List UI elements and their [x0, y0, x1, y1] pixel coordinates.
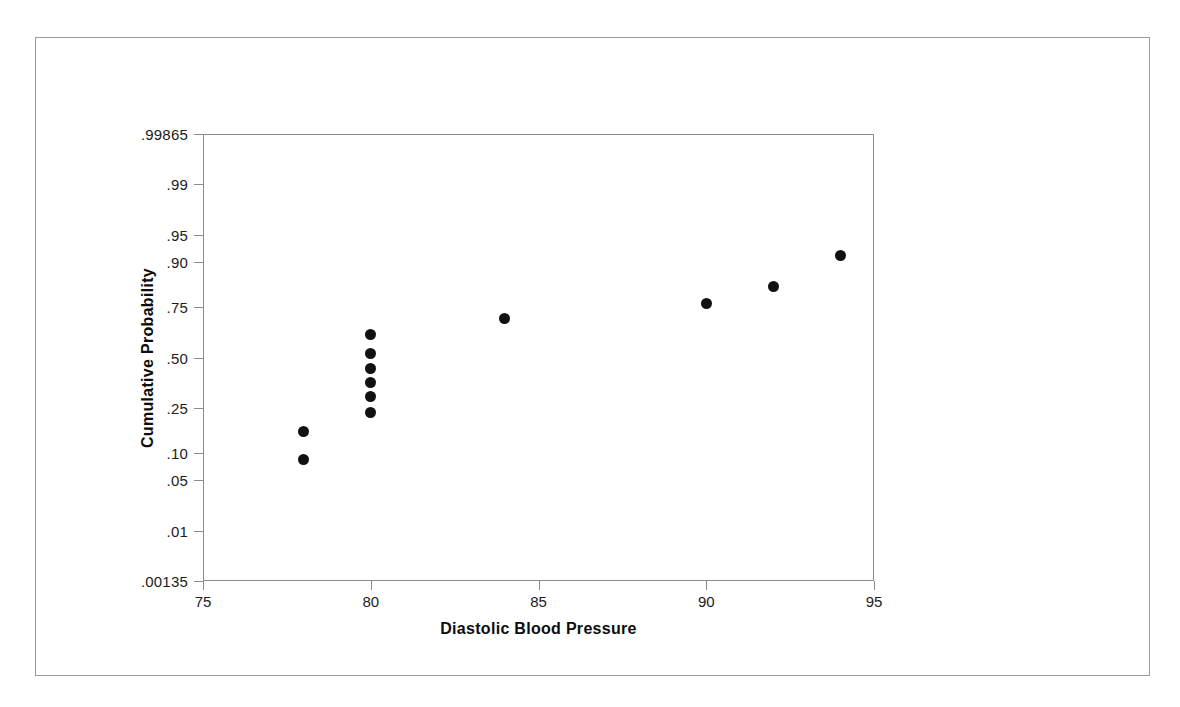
y-tick-label: .10	[78, 444, 188, 461]
y-tick-label: .99865	[78, 126, 188, 143]
y-tick-label: .00135	[78, 573, 188, 590]
y-tick-label: .05	[78, 472, 188, 489]
y-tick-mark	[194, 358, 203, 359]
x-tick-mark	[874, 581, 875, 590]
y-tick-label: .50	[78, 349, 188, 366]
y-tick-mark	[194, 453, 203, 454]
y-tick-label: .99	[78, 176, 188, 193]
y-tick-mark	[194, 531, 203, 532]
x-tick-label: 95	[866, 593, 883, 610]
y-tick-label: .01	[78, 522, 188, 539]
y-tick-mark	[194, 184, 203, 185]
x-tick-label: 80	[362, 593, 379, 610]
y-tick-mark	[194, 581, 203, 582]
y-tick-label: .75	[78, 299, 188, 316]
y-tick-mark	[194, 408, 203, 409]
normal-probability-plot: Cumulative Probability Diastolic Blood P…	[0, 0, 1180, 707]
y-tick-label: .90	[78, 254, 188, 271]
x-tick-mark	[706, 581, 707, 590]
data-point	[835, 250, 846, 261]
x-tick-mark	[203, 581, 204, 590]
plot-frame	[203, 134, 874, 581]
y-tick-mark	[194, 235, 203, 236]
x-tick-mark	[371, 581, 372, 590]
x-tick-label: 90	[698, 593, 715, 610]
data-point	[701, 298, 712, 309]
y-tick-label: .25	[78, 399, 188, 416]
y-tick-mark	[194, 134, 203, 135]
y-tick-mark	[194, 480, 203, 481]
x-axis-title: Diastolic Blood Pressure	[203, 620, 874, 638]
y-tick-mark	[194, 262, 203, 263]
data-point	[365, 377, 376, 388]
x-tick-label: 85	[530, 593, 547, 610]
data-point	[768, 281, 779, 292]
y-tick-mark	[194, 307, 203, 308]
y-tick-label: .95	[78, 226, 188, 243]
x-tick-label: 75	[195, 593, 212, 610]
x-tick-mark	[539, 581, 540, 590]
